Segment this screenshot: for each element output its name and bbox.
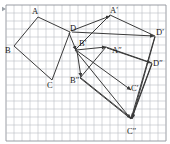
vertex-label-b: B — [5, 46, 11, 55]
vertex-label-c: C — [47, 81, 53, 90]
left-edge-arrow — [2, 7, 6, 11]
vertex-label-c-prime: C′ — [131, 84, 139, 93]
vertex-label-a-prime: A′ — [110, 6, 118, 15]
vertex-label-a: A — [32, 7, 38, 16]
diagram-canvas: ABCDA′B′C′D′A″B″C″D″ — [0, 0, 170, 144]
vector-d-prime-to-c-double-prime — [132, 37, 155, 119]
vertex-label-b-prime: B′ — [79, 39, 87, 48]
vertex-label-c-double-prime: C″ — [127, 127, 136, 136]
vertex-label-b-double-prime: B″ — [70, 76, 79, 85]
vector-b-prime-to-c-prime — [76, 50, 131, 90]
geometry-figure — [0, 0, 170, 144]
vertex-label-d-double-prime: D″ — [153, 59, 163, 68]
vertex-label-a-double-prime: A″ — [112, 46, 122, 55]
quadrilateral-a-prime — [75, 15, 155, 119]
vertex-label-d: D — [70, 24, 76, 33]
vertex-label-d-prime: D′ — [156, 28, 164, 37]
quadrilateral-abcd — [14, 17, 70, 80]
